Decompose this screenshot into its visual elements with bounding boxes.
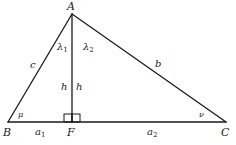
right-angle-marker-left bbox=[64, 114, 72, 122]
angle-label-nu: ν bbox=[199, 110, 204, 119]
right-angle-marker-right bbox=[72, 114, 80, 122]
angle-label-lambda2: λ2 bbox=[82, 41, 94, 54]
angle-label-mu: μ bbox=[18, 110, 23, 119]
segment-label-a1: a1 bbox=[35, 126, 45, 139]
triangle-diagram: A B F C c b h h λ1 λ2 μ ν a1 a2 bbox=[0, 0, 236, 145]
vertex-label-c: C bbox=[221, 126, 230, 139]
vertex-label-b: B bbox=[2, 126, 11, 139]
side-b bbox=[72, 14, 226, 122]
angle-label-lambda1: λ1 bbox=[56, 41, 68, 54]
altitude-label-right: h bbox=[76, 81, 82, 92]
side-label-c: c bbox=[30, 59, 36, 70]
segment-label-a2: a2 bbox=[147, 126, 157, 139]
side-label-b: b bbox=[155, 58, 161, 69]
altitude-label-left: h bbox=[61, 81, 67, 92]
vertex-label-a: A bbox=[66, 0, 75, 13]
vertex-label-f: F bbox=[66, 126, 75, 139]
side-c bbox=[8, 14, 72, 122]
